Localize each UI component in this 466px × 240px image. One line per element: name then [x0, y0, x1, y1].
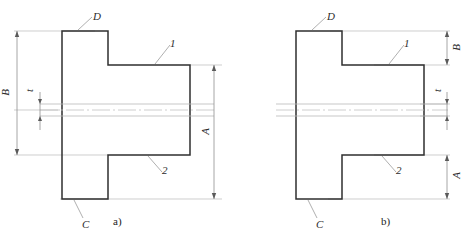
figure-a-label-2: 2: [162, 165, 168, 176]
dim-t-arrow-lower-b: [445, 116, 449, 121]
technical-drawing-svg: [0, 0, 466, 240]
dim-A-arrow-top-b: [445, 155, 449, 161]
figure-b-part-outline: [296, 31, 424, 199]
leader-C: [74, 200, 83, 218]
figure-b-dimension-t: [445, 92, 449, 130]
figure-b-dim-label-t: t: [432, 89, 443, 92]
figure-a-group: [14, 17, 222, 218]
drawing-canvas: D 1 2 C B t A a) D 1 2 C B t A b): [0, 0, 466, 240]
dim-A-arrow-bottom: [212, 193, 216, 199]
figure-a-label-D: D: [93, 11, 101, 22]
leader-2-b: [382, 156, 396, 172]
figure-a-dim-label-A: A: [200, 128, 211, 135]
leader-2: [148, 156, 162, 172]
figure-b-dim-label-A: A: [451, 172, 462, 179]
leader-C-b: [308, 200, 317, 218]
dim-B-arrow-top-b: [445, 31, 449, 37]
dim-t-arrow-upper: [38, 99, 42, 104]
figure-b-leader-lines: [308, 17, 404, 218]
figure-b-label-1: 1: [404, 38, 410, 49]
figure-b-label-C: C: [316, 219, 323, 230]
figure-b-dim-label-B: B: [451, 44, 462, 51]
dim-t-arrow-upper-b: [445, 99, 449, 104]
figure-a-label-1: 1: [170, 38, 176, 49]
dim-t-arrow-lower: [38, 116, 42, 121]
dim-A-arrow-bottom-b: [445, 193, 449, 199]
figure-a-caption: a): [113, 216, 122, 227]
figure-b-label-2: 2: [396, 165, 402, 176]
figure-b-label-D: D: [327, 11, 335, 22]
figure-a-dim-label-B: B: [0, 89, 11, 96]
figure-b-dimension-A: [445, 155, 449, 199]
figure-a-part-outline: [62, 31, 190, 199]
figure-a-leader-lines: [74, 17, 170, 218]
figure-a-dimension-B: [15, 31, 19, 155]
figure-a-extension-lines: [14, 31, 222, 199]
dim-B-arrow-bottom: [15, 149, 19, 155]
figure-a-dim-label-t: t: [24, 89, 35, 92]
leader-D: [78, 17, 92, 30]
dim-B-arrow-top: [15, 31, 19, 37]
figure-b-caption: b): [381, 216, 390, 227]
leader-1-b: [389, 45, 404, 64]
dim-A-arrow-top: [212, 65, 216, 71]
leader-1: [155, 45, 170, 64]
figure-b-extension-lines: [328, 31, 450, 199]
leader-D-b: [312, 17, 326, 30]
figure-a-dimension-A: [212, 65, 216, 199]
dim-B-arrow-bottom-b: [445, 59, 449, 65]
figure-a-dimension-t: [38, 92, 42, 130]
figure-b-dimension-B: [445, 31, 449, 65]
figure-b-group: [276, 17, 450, 218]
figure-a-label-C: C: [82, 219, 89, 230]
